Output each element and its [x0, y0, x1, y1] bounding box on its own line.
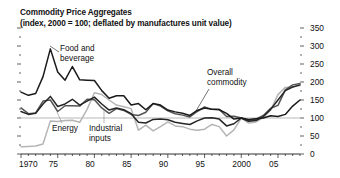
x-tick-label-1970: 1970	[19, 159, 38, 169]
series-label-industrial-inputs: Industrial inputs	[89, 124, 122, 143]
series-label-food-line1: Food and	[60, 44, 95, 54]
y-tick-label-50: 50	[310, 131, 319, 141]
series-label-energy-line1: Energy	[52, 124, 78, 134]
y-tick-label-350: 350	[310, 23, 324, 33]
y-tick-label-150: 150	[310, 95, 324, 105]
chart-subtitle: (index, 2000 = 100; deflated by manufact…	[20, 19, 232, 28]
x-tick-label-80: 80	[85, 159, 94, 169]
chart-figure: Commodity Price Aggregates (index, 2000 …	[0, 0, 340, 178]
x-tick-label-2000: 2000	[232, 159, 251, 169]
series-label-overall-commodity: Overall commodity	[207, 68, 247, 87]
x-tick-label-85: 85	[122, 159, 131, 169]
series-label-industrial-line1: Industrial	[89, 124, 122, 134]
y-tick-label-0: 0	[310, 149, 315, 159]
series-label-food-and-beverage: Food and beverage	[60, 44, 95, 63]
y-tick-label-200: 200	[310, 77, 324, 87]
series-line-industrial-inputs	[21, 83, 300, 120]
series-label-overall-line2: commodity	[207, 78, 247, 88]
series-label-food-line2: beverage	[60, 54, 95, 64]
series-label-industrial-line2: inputs	[89, 134, 122, 144]
y-tick-label-100: 100	[310, 113, 324, 123]
series-label-energy: Energy	[52, 124, 78, 134]
x-tick-label-75: 75	[49, 159, 58, 169]
x-tick-label-95: 95	[196, 159, 205, 169]
y-tick-label-250: 250	[310, 59, 324, 69]
x-tick-label-05: 05	[269, 159, 278, 169]
x-axis-ticks	[21, 154, 300, 158]
y-axis-ticks-left	[17, 28, 21, 154]
x-tick-label-90: 90	[159, 159, 168, 169]
y-axis-ticks-right	[300, 28, 304, 154]
chart-title: Commodity Price Aggregates	[20, 8, 132, 17]
series-label-overall-line1: Overall	[207, 68, 247, 78]
series-line-energy	[21, 86, 300, 147]
y-tick-label-300: 300	[310, 41, 324, 51]
